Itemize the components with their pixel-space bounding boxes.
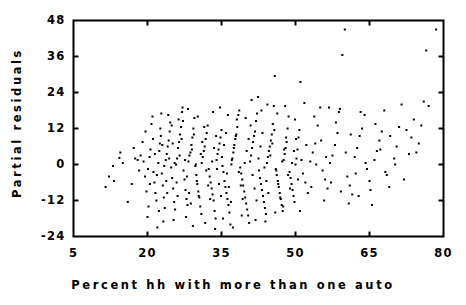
data-point: [209, 176, 211, 178]
data-point: [394, 164, 396, 166]
data-point: [209, 198, 211, 200]
data-point: [315, 164, 317, 166]
data-point: [184, 179, 186, 181]
data-point: [113, 180, 115, 182]
plot-frame: [74, 21, 444, 237]
data-point: [221, 129, 223, 131]
data-point: [282, 210, 284, 212]
data-point: [218, 183, 220, 185]
data-point: [358, 195, 360, 197]
data-point: [250, 125, 252, 127]
data-point: [309, 161, 311, 163]
data-point: [158, 150, 160, 152]
data-point: [406, 129, 408, 131]
data-point: [351, 194, 353, 196]
data-point: [277, 180, 279, 182]
data-point: [214, 210, 216, 212]
data-point: [251, 147, 253, 149]
data-point: [146, 191, 148, 193]
data-point: [303, 102, 305, 104]
data-point: [410, 137, 412, 139]
data-point: [295, 164, 297, 166]
data-point: [228, 186, 230, 188]
data-point: [263, 201, 265, 203]
data-point: [224, 186, 226, 188]
data-point: [154, 153, 156, 155]
data-point: [176, 182, 178, 184]
data-point: [425, 50, 427, 52]
data-point: [221, 156, 223, 158]
data-point: [213, 200, 215, 202]
data-point: [198, 195, 200, 197]
data-point: [212, 111, 214, 113]
data-point: [177, 147, 179, 149]
data-point: [142, 141, 144, 143]
x-tick-label: 80: [419, 246, 466, 260]
data-point: [366, 168, 368, 170]
data-point: [185, 198, 187, 200]
data-point: [173, 219, 175, 221]
data-point: [195, 164, 197, 166]
data-point: [260, 183, 262, 185]
data-point: [369, 180, 371, 182]
data-point: [378, 140, 380, 142]
data-point: [252, 141, 254, 143]
data-point: [179, 134, 181, 136]
data-point: [161, 144, 163, 146]
data-point: [259, 177, 261, 179]
data-point: [188, 155, 190, 157]
data-point: [246, 150, 248, 152]
data-point: [389, 135, 391, 137]
x-tick-label: 35: [197, 246, 247, 260]
data-point: [138, 170, 140, 172]
data-point: [167, 114, 169, 116]
data-point: [254, 188, 256, 190]
data-point: [388, 186, 390, 188]
data-point: [156, 174, 158, 176]
data-point: [226, 198, 228, 200]
y-tick-label: 0: [56, 157, 65, 171]
data-point: [360, 111, 362, 113]
data-point: [393, 158, 395, 160]
data-point: [269, 155, 271, 157]
data-point: [178, 119, 180, 121]
data-point: [151, 116, 153, 118]
data-point: [374, 123, 376, 125]
data-point: [192, 225, 194, 227]
data-point: [157, 162, 159, 164]
data-point: [192, 128, 194, 130]
data-point: [255, 219, 257, 221]
scatter-plot-figure: Partial residuals Percent hh with more t…: [0, 0, 466, 305]
data-point: [228, 212, 230, 214]
data-point: [361, 128, 363, 130]
data-point: [290, 177, 292, 179]
data-point: [215, 135, 217, 137]
data-point: [208, 168, 210, 170]
data-point: [313, 116, 315, 118]
data-point: [195, 174, 197, 176]
data-point: [273, 129, 275, 131]
data-point: [230, 201, 232, 203]
data-point: [193, 117, 195, 119]
data-point: [156, 227, 158, 229]
data-point: [169, 122, 171, 124]
data-point: [238, 171, 240, 173]
data-point: [131, 183, 133, 185]
data-point: [334, 144, 336, 146]
data-point: [244, 197, 246, 199]
data-point: [242, 198, 244, 200]
data-point: [274, 75, 276, 77]
data-point: [167, 146, 169, 148]
data-point: [346, 176, 348, 178]
data-point: [204, 222, 206, 224]
data-point: [296, 149, 298, 151]
data-point: [258, 158, 260, 160]
data-point: [216, 168, 218, 170]
data-point: [263, 167, 265, 169]
data-point: [271, 143, 273, 145]
data-point: [148, 156, 150, 158]
data-point: [188, 192, 190, 194]
data-point: [186, 176, 188, 178]
data-point: [140, 155, 142, 157]
data-point: [369, 189, 371, 191]
